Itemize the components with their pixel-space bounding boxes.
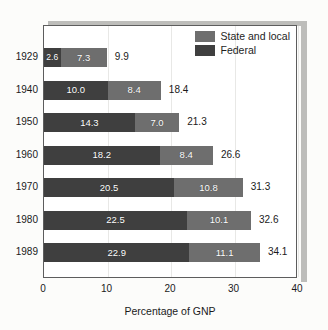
x-axis-title: Percentage of GNP bbox=[43, 306, 297, 317]
bar-row: 20.510.831.3 bbox=[44, 178, 298, 197]
bar-row: 14.37.021.3 bbox=[44, 113, 298, 132]
bar-segment-state-and-local: 10.8 bbox=[174, 178, 243, 197]
bar-segment-federal: 18.2 bbox=[44, 146, 160, 165]
x-tick-0: 0 bbox=[31, 284, 55, 294]
bar-rows: 2.67.39.910.08.418.414.37.021.318.28.426… bbox=[44, 26, 296, 277]
bar-value-state-and-local: 8.4 bbox=[128, 85, 141, 95]
bar-segment-state-and-local: 10.1 bbox=[187, 211, 251, 230]
bar-value-federal: 14.3 bbox=[80, 118, 99, 128]
x-tick-20: 20 bbox=[158, 284, 182, 294]
x-tick-30: 30 bbox=[222, 284, 246, 294]
bar-segment-federal: 20.5 bbox=[44, 178, 174, 197]
stacked-bar: 18.28.4 bbox=[44, 146, 213, 165]
bar-total-label: 34.1 bbox=[268, 247, 287, 257]
bar-value-state-and-local: 11.1 bbox=[216, 248, 234, 258]
stacked-bar: 14.37.0 bbox=[44, 113, 179, 132]
bar-segment-federal: 2.6 bbox=[44, 48, 61, 67]
y-axis-label-1989: 1989 bbox=[4, 247, 38, 257]
bar-segment-state-and-local: 8.4 bbox=[160, 146, 213, 165]
bar-row: 2.67.39.9 bbox=[44, 48, 298, 67]
bar-segment-federal: 10.0 bbox=[44, 81, 108, 100]
stacked-bar: 2.67.3 bbox=[44, 48, 107, 67]
bar-total-label: 18.4 bbox=[169, 85, 188, 95]
bar-value-state-and-local: 8.4 bbox=[180, 150, 193, 160]
bar-value-federal: 22.5 bbox=[106, 215, 125, 225]
bar-segment-state-and-local: 7.0 bbox=[135, 113, 179, 132]
bar-row: 10.08.418.4 bbox=[44, 81, 298, 100]
bar-value-state-and-local: 10.1 bbox=[210, 215, 229, 225]
frame-shadow-right bbox=[301, 21, 307, 282]
bar-value-federal: 2.6 bbox=[46, 53, 58, 63]
stacked-bar: 22.510.1 bbox=[44, 211, 251, 230]
bar-value-state-and-local: 7.3 bbox=[77, 53, 90, 63]
bar-total-label: 26.6 bbox=[221, 150, 240, 160]
y-axis-label-1940: 1940 bbox=[4, 85, 38, 95]
bar-total-label: 21.3 bbox=[187, 117, 206, 127]
y-axis-label-1950: 1950 bbox=[4, 117, 38, 127]
bar-segment-federal: 14.3 bbox=[44, 113, 135, 132]
chart-figure: State and local Federal 2.67.39.910.08.4… bbox=[0, 0, 328, 330]
bar-segment-state-and-local: 7.3 bbox=[61, 48, 107, 67]
bar-row: 18.28.426.6 bbox=[44, 146, 298, 165]
bar-value-federal: 10.0 bbox=[67, 85, 86, 95]
gridline-40 bbox=[298, 26, 299, 277]
bar-value-federal: 18.2 bbox=[93, 150, 112, 160]
y-axis-label-1960: 1960 bbox=[4, 150, 38, 160]
bar-segment-state-and-local: 11.1 bbox=[189, 243, 259, 262]
bar-row: 22.911.134.1 bbox=[44, 243, 298, 262]
bar-value-state-and-local: 10.8 bbox=[199, 183, 218, 193]
y-axis-label-1980: 1980 bbox=[4, 215, 38, 225]
bar-total-label: 9.9 bbox=[115, 52, 129, 62]
stacked-bar: 10.08.4 bbox=[44, 81, 161, 100]
bar-value-federal: 22.9 bbox=[107, 248, 126, 258]
bar-value-federal: 20.5 bbox=[100, 183, 119, 193]
bar-value-state-and-local: 7.0 bbox=[150, 118, 163, 128]
bar-segment-federal: 22.9 bbox=[44, 243, 189, 262]
y-axis-label-1970: 1970 bbox=[4, 182, 38, 192]
bar-segment-state-and-local: 8.4 bbox=[108, 81, 161, 100]
bar-total-label: 32.6 bbox=[259, 215, 278, 225]
x-tick-10: 10 bbox=[95, 284, 119, 294]
plot-area: State and local Federal 2.67.39.910.08.4… bbox=[43, 25, 297, 278]
bar-segment-federal: 22.5 bbox=[44, 211, 187, 230]
bar-row: 22.510.132.6 bbox=[44, 211, 298, 230]
stacked-bar: 20.510.8 bbox=[44, 178, 243, 197]
x-tick-40: 40 bbox=[285, 284, 309, 294]
stacked-bar: 22.911.1 bbox=[44, 243, 260, 262]
bar-total-label: 31.3 bbox=[251, 182, 270, 192]
y-axis-label-1929: 1929 bbox=[4, 52, 38, 62]
